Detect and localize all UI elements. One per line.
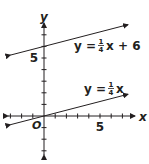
origin-label: O [32,119,41,132]
series-label-suffix: x [116,82,124,96]
series-label-1: y = 14x + 6 [74,38,141,54]
series-line-2 [10,94,128,124]
y-tick-label: 5 [30,51,38,65]
series-label-2: y = 14x [84,81,124,97]
chart: x y O 55y = 14x + 6y = 14x [0,0,149,164]
fraction-numerator: 1 [99,38,104,46]
x-axis-label: x [138,110,148,124]
series-label-prefix: y = [84,82,106,96]
fraction-denominator: 4 [99,46,104,54]
fraction-numerator: 1 [109,81,114,89]
series-label-suffix: x + 6 [106,39,141,53]
y-axis-label: y [40,10,49,24]
series-label-prefix: y = [74,39,96,53]
fraction-denominator: 4 [109,89,114,97]
x-tick-label: 5 [96,120,104,134]
